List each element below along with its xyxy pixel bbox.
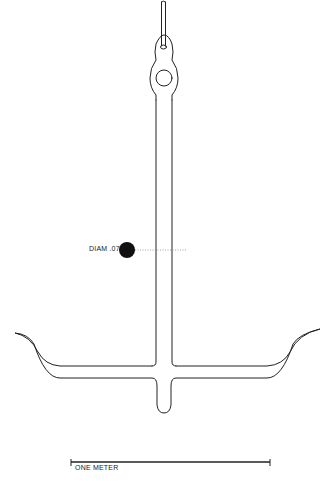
ring-link — [161, 45, 167, 49]
ring-rod — [162, 1, 166, 46]
scale-label: ONE METER — [75, 464, 118, 471]
shank-right — [172, 100, 176, 366]
diameter-label: DIAM .07 — [89, 245, 120, 252]
left-arm — [15, 329, 320, 413]
eye-hole — [156, 70, 172, 86]
shank-left — [152, 100, 156, 366]
anchor-drawing — [0, 0, 327, 481]
diameter-dot — [119, 242, 135, 258]
